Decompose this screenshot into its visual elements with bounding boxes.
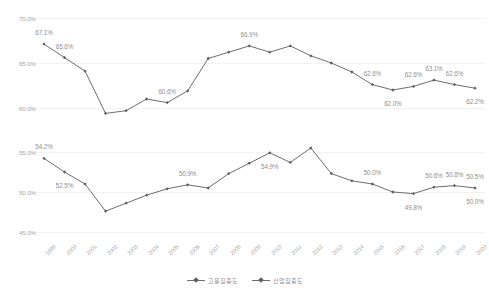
- data-point-marker: [391, 88, 394, 91]
- series-path: [44, 148, 475, 211]
- y-tick-label: 45.0%: [2, 229, 36, 236]
- data-point-marker: [412, 85, 415, 88]
- legend-marker-icon: [252, 277, 270, 284]
- data-point-label: 49.8%: [405, 203, 422, 210]
- data-point-marker: [309, 54, 312, 57]
- data-point-marker: [350, 179, 353, 182]
- data-point-label: 62.6%: [446, 69, 463, 76]
- legend-item[interactable]: 산업집중도: [252, 276, 303, 285]
- data-point-marker: [124, 202, 127, 205]
- data-point-marker: [248, 162, 251, 165]
- data-point-marker: [248, 44, 251, 47]
- y-tick-label: 70.0%: [2, 15, 36, 22]
- data-point-marker: [371, 182, 374, 185]
- data-point-marker: [453, 184, 456, 187]
- chart-legend: 고용집중도산업집중도: [0, 272, 489, 288]
- data-point-label: 65.6%: [56, 42, 73, 49]
- legend-label: 고용집중도: [208, 276, 238, 285]
- data-point-label: 50.8%: [446, 170, 463, 177]
- data-point-marker: [432, 186, 435, 189]
- data-point-label: 50.5%: [466, 173, 483, 180]
- data-point-label: 52.5%: [56, 182, 73, 189]
- data-point-label: 54.9%: [261, 162, 278, 169]
- data-point-label: 62.0%: [384, 100, 401, 107]
- legend-item[interactable]: 고용집중도: [187, 276, 238, 285]
- data-point-label: 50.6%: [425, 172, 442, 179]
- chart-panel-bottom: 45.0%50.0%55.0% 54.2%52.5%50.9%54.9%50.0…: [0, 140, 489, 250]
- data-point-label: 62.2%: [466, 98, 483, 105]
- data-point-marker: [268, 51, 271, 54]
- plot-area-bottom: 54.2%52.5%50.9%54.9%50.0%49.8%50.6%50.8%…: [36, 140, 485, 250]
- data-point-marker: [473, 186, 476, 189]
- legend-marker-icon: [187, 277, 205, 284]
- data-point-marker: [473, 87, 476, 90]
- data-point-marker: [186, 183, 189, 186]
- data-point-marker: [268, 151, 271, 154]
- series-path: [44, 44, 475, 113]
- y-axis-labels-bottom: 45.0%50.0%55.0%: [0, 140, 36, 250]
- data-point-marker: [145, 194, 148, 197]
- x-axis-category-labels: 1999200020012002200320042005200620072008…: [0, 248, 489, 274]
- data-point-marker: [412, 192, 415, 195]
- y-axis-labels-top: 60.0%65.0%70.0%: [0, 0, 36, 140]
- y-tick-label: 55.0%: [2, 149, 36, 156]
- data-point-marker: [391, 190, 394, 193]
- data-point-label: 63.1%: [425, 65, 442, 72]
- data-point-label: 50.0%: [364, 169, 381, 176]
- data-point-marker: [289, 44, 292, 47]
- data-point-label: 62.6%: [405, 71, 422, 78]
- data-point-marker: [166, 187, 169, 190]
- data-point-label: 62.6%: [364, 69, 381, 76]
- y-tick-label: 65.0%: [2, 60, 36, 67]
- data-point-marker: [227, 51, 230, 54]
- data-point-label: 60.6%: [158, 87, 175, 94]
- plot-area-top: 67.1%65.6%60.6%66.9%62.6%62.0%62.6%63.1%…: [36, 0, 485, 140]
- data-point-marker: [432, 78, 435, 81]
- y-tick-label: 60.0%: [2, 105, 36, 112]
- data-point-label: 50.0%: [466, 198, 483, 205]
- data-point-label: 54.2%: [35, 143, 52, 150]
- chart-panel-top: 60.0%65.0%70.0% 67.1%65.6%60.6%66.9%62.6…: [0, 0, 489, 140]
- data-point-marker: [104, 112, 107, 115]
- data-point-label: 66.9%: [241, 30, 258, 37]
- data-point-marker: [453, 83, 456, 86]
- legend-label: 산업집중도: [273, 276, 303, 285]
- data-point-marker: [330, 61, 333, 64]
- dual-line-chart-figure: 60.0%65.0%70.0% 67.1%65.6%60.6%66.9%62.6…: [0, 0, 489, 293]
- data-point-label: 67.1%: [35, 29, 52, 36]
- y-tick-label: 50.0%: [2, 189, 36, 196]
- data-point-label: 50.9%: [179, 169, 196, 176]
- series-line-bottom: [36, 140, 485, 250]
